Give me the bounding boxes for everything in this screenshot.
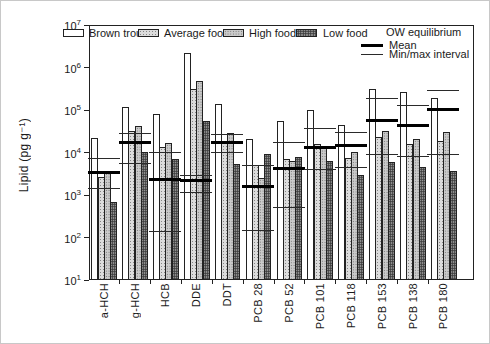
equilibrium-min-line (335, 167, 367, 168)
y-axis-tick-label: 101 (21, 274, 81, 287)
equilibrium-min-line (119, 163, 151, 164)
x-axis-category-label: PCB 101 (314, 283, 326, 329)
x-axis-category-label: PCB 52 (283, 283, 295, 323)
equilibrium-mean-line (427, 108, 459, 111)
equilibrium-max-line (427, 90, 459, 91)
equilibrium-max-line (88, 158, 120, 159)
x-axis-tick (274, 280, 275, 284)
equilibrium-mean-line (180, 179, 212, 182)
x-axis-category-label: PCB 28 (252, 283, 264, 323)
bar-brown-trout (307, 110, 314, 280)
legend-swatch-hatch-light (138, 29, 159, 37)
x-axis-category-label: HCB (159, 283, 171, 307)
x-axis-tick (428, 280, 429, 284)
x-axis-category-label-wrap: DDT (219, 283, 235, 343)
equilibrium-min-line (149, 231, 181, 232)
bar-low-food (388, 162, 395, 280)
x-axis-category-label-wrap: PCB 138 (405, 283, 421, 343)
equilibrium-max-line (273, 142, 305, 143)
lipid-bar-chart-figure: Lipid (pg g⁻¹) 101102103104105106107a-HC… (0, 0, 490, 344)
equilibrium-min-line (397, 156, 429, 157)
legend-label-brown-trout: Brown trout (89, 27, 145, 40)
legend-ow-title: OW equilibrium (386, 26, 461, 39)
x-axis-tick (181, 280, 182, 284)
bar-low-food (419, 167, 426, 280)
y-axis-tick (84, 67, 89, 68)
y-axis-tick (84, 195, 89, 196)
x-axis-category-label-wrap: HCB (157, 283, 173, 343)
bar-low-food (357, 175, 364, 280)
legend-swatch-hatch-dark (296, 29, 317, 37)
equilibrium-mean-line (88, 171, 120, 174)
x-axis-tick (304, 280, 305, 284)
equilibrium-min-line (88, 188, 120, 189)
bar-low-food (450, 171, 457, 280)
y-axis-tick-label: 105 (21, 104, 81, 117)
x-axis-category-label-wrap: g-HCH (127, 283, 143, 343)
equilibrium-mean-line (242, 185, 274, 188)
equilibrium-min-line (427, 154, 459, 155)
x-axis-category-label-wrap: PCB 101 (312, 283, 328, 343)
equilibrium-mean-line (211, 141, 243, 144)
equilibrium-min-line (366, 154, 398, 155)
legend-swatch-white (63, 29, 84, 37)
bar-low-food (326, 161, 333, 281)
legend-mean-line-sample (361, 44, 383, 47)
equilibrium-mean-line (366, 119, 398, 122)
equilibrium-mean-line (304, 146, 336, 149)
x-axis-category-label: PCB 118 (345, 283, 357, 328)
x-axis-tick (212, 280, 213, 284)
x-axis-category-label-wrap: PCB 153 (374, 283, 390, 343)
x-axis-tick (335, 280, 336, 284)
x-axis-category-label-wrap: PCB 52 (281, 283, 297, 343)
bar-low-food (233, 164, 240, 281)
equilibrium-max-line (335, 132, 367, 133)
legend-swatch-hatch-medium (223, 29, 244, 37)
y-axis-tick-label: 103 (21, 189, 81, 202)
y-axis-tick (84, 152, 89, 153)
equilibrium-min-line (180, 192, 212, 193)
bar-average-food (406, 144, 413, 280)
equilibrium-min-line (242, 230, 274, 231)
y-axis-tick (84, 280, 89, 281)
equilibrium-mean-line (149, 178, 181, 181)
equilibrium-max-line (397, 105, 429, 106)
x-axis-category-label-wrap: PCB 180 (435, 283, 451, 343)
x-axis-category-label-wrap: PCB 28 (250, 283, 266, 343)
x-axis-category-label: g-HCH (129, 283, 141, 318)
bar-low-food (203, 121, 210, 280)
equilibrium-max-line (304, 128, 336, 129)
y-axis-tick-label: 106 (21, 62, 81, 75)
equilibrium-max-line (149, 152, 181, 153)
legend-label-low-food: Low food (323, 27, 368, 40)
equilibrium-max-line (119, 133, 151, 134)
y-axis-tick (84, 25, 89, 26)
equilibrium-mean-line (119, 141, 151, 144)
bar-brown-trout (91, 138, 98, 280)
equilibrium-max-line (366, 98, 398, 99)
bar-low-food (141, 152, 148, 280)
equilibrium-min-line (211, 152, 243, 153)
y-axis-tick (84, 237, 89, 238)
x-axis-tick (397, 280, 398, 284)
legend-label-high-food: High food (249, 27, 296, 40)
x-axis-category-label-wrap: PCB 118 (343, 283, 359, 343)
bar-brown-trout (338, 125, 345, 280)
bar-high-food (165, 143, 172, 280)
x-axis-tick (366, 280, 367, 284)
x-axis-category-label: DDT (221, 283, 233, 307)
x-axis-category-label: PCB 153 (376, 283, 388, 329)
x-axis-category-label: PCB 180 (437, 283, 449, 329)
bar-low-food (110, 202, 117, 280)
equilibrium-mean-line (273, 167, 305, 170)
equilibrium-max-line (180, 175, 212, 176)
x-axis-category-label: a-HCH (98, 283, 110, 318)
x-axis-category-label-wrap: a-HCH (96, 283, 112, 343)
bar-low-food (295, 157, 302, 280)
x-axis-tick (119, 280, 120, 284)
legend-minmax-line-sample (361, 54, 383, 55)
equilibrium-max-line (211, 134, 243, 135)
x-axis-category-label: DDE (190, 283, 202, 307)
x-axis-tick (243, 280, 244, 284)
bar-low-food (264, 154, 271, 280)
